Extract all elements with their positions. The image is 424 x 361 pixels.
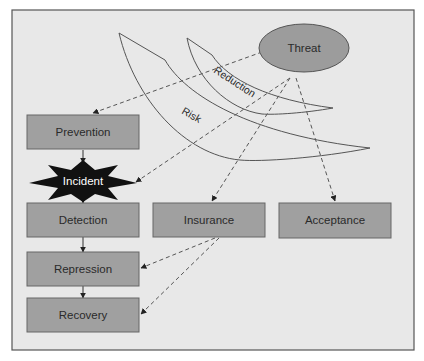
node-prevention: Prevention (27, 115, 139, 149)
repression-label: Repression (54, 263, 112, 275)
acceptance-label: Acceptance (305, 214, 365, 226)
recovery-label: Recovery (59, 309, 108, 321)
insurance-label: Insurance (184, 214, 235, 226)
node-detection: Detection (27, 203, 139, 237)
prevention-label: Prevention (56, 126, 111, 138)
node-insurance: Insurance (153, 203, 265, 237)
detection-label: Detection (59, 214, 108, 226)
risk-management-diagram: Reduction Risk Threat Prevention Inciden… (0, 0, 424, 361)
node-acceptance: Acceptance (279, 203, 391, 238)
incident-label: Incident (63, 175, 104, 187)
node-recovery: Recovery (27, 298, 139, 332)
threat-label: Threat (287, 42, 321, 54)
node-repression: Repression (27, 252, 139, 286)
node-threat: Threat (259, 24, 349, 72)
